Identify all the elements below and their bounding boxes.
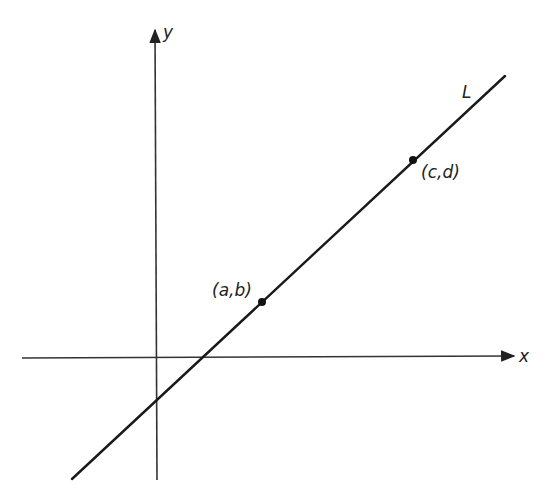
x-axis <box>22 356 514 358</box>
point-c-d-label: (c,d) <box>421 162 460 182</box>
point-c-d <box>409 156 417 164</box>
point-a-b-label: (a,b) <box>212 280 252 300</box>
y-axis <box>155 30 157 480</box>
coordinate-diagram: y x L (a,b) (c,d) <box>0 0 550 496</box>
y-axis-label: y <box>162 22 174 42</box>
line-l <box>72 76 505 479</box>
point-a-b <box>258 298 266 306</box>
x-axis-label: x <box>518 346 530 366</box>
line-label: L <box>462 82 471 102</box>
